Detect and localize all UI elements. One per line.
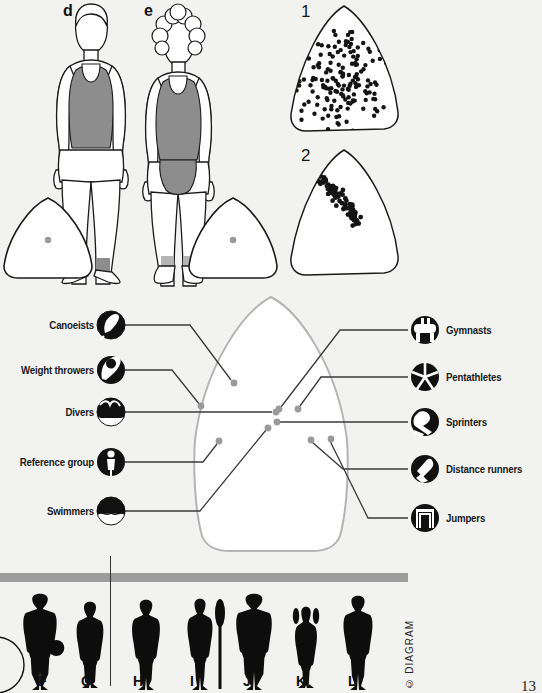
label-canoeists[interactable]: Canoeists: [11, 319, 94, 331]
silhouette-letter-I: I: [190, 673, 194, 689]
silhouette-letter-K: K: [296, 673, 306, 689]
point-reference-group: [216, 438, 223, 445]
icon-discus-throw-icon: [97, 356, 125, 384]
somatotype-dot-d: [45, 237, 51, 243]
partial-circle-decoration: [0, 637, 24, 693]
copyright-text: © DIAGRAM: [404, 620, 415, 689]
scatter-number-2: 2: [301, 146, 310, 166]
icon-person-standing-icon: [97, 448, 125, 476]
label-sprinters[interactable]: Sprinters: [446, 416, 487, 428]
point-sprinters: [274, 419, 281, 426]
silhouette-letter-H: H: [133, 673, 143, 689]
label-weight-throwers[interactable]: Weight throwers: [11, 364, 94, 376]
illustration-layer: [0, 0, 542, 693]
silhouette-letter-J: J: [243, 673, 251, 689]
somatochart-outline: [194, 297, 347, 551]
scatter-number-1: 1: [301, 2, 310, 22]
figure-letter-e: e: [144, 2, 153, 20]
icon-running-shoe-icon: [411, 455, 439, 483]
silhouette-letter-L: L: [348, 673, 357, 689]
point-pentathletes: [295, 406, 302, 413]
icon-high-jump-bar-icon: [411, 504, 439, 532]
label-distance-runners[interactable]: Distance runners: [446, 463, 522, 475]
gray-separator-bar: [0, 573, 408, 582]
point-gymnasts: [276, 406, 283, 413]
icon-diver-splash-icon: [97, 398, 125, 426]
label-swimmers[interactable]: Swimmers: [11, 505, 94, 517]
icon-sprinter-shoe-icon: [411, 408, 439, 437]
vertical-rule: [110, 556, 111, 686]
bottom-silhouettes: [23, 594, 372, 690]
icon-five-segment-icon: [411, 363, 439, 391]
silhouette-letter-F: F: [38, 673, 47, 689]
icon-swimmer-water-icon: [97, 497, 125, 525]
silhouette-letter-G: G: [81, 673, 92, 689]
label-gymnasts[interactable]: Gymnasts: [446, 324, 491, 336]
figure-d-vest: [69, 64, 113, 148]
scatter-panel-1: [280, 6, 402, 144]
page-root: d e 1 2 Canoeists Weight throwers Divers…: [0, 0, 542, 693]
point-jumpers: [328, 436, 335, 443]
label-pentathletes[interactable]: Pentathletes: [446, 371, 501, 383]
icon-canoe-paddle-icon: [97, 311, 125, 340]
point-weight-throwers: [198, 403, 205, 410]
figure-e-swimsuit: [156, 76, 201, 195]
label-reference-group[interactable]: Reference group: [11, 456, 94, 468]
figure-letter-d: d: [63, 2, 73, 20]
label-jumpers[interactable]: Jumpers: [446, 512, 485, 524]
page-number: 13: [521, 678, 536, 693]
point-canoeists: [231, 380, 238, 387]
icon-pommel-horse-icon: [411, 316, 439, 344]
point-distance-runners: [308, 437, 315, 444]
label-divers[interactable]: Divers: [11, 406, 94, 418]
scatter-panel-2: [291, 150, 398, 275]
point-swimmers: [265, 425, 272, 432]
somatotype-dot-e: [230, 237, 236, 243]
